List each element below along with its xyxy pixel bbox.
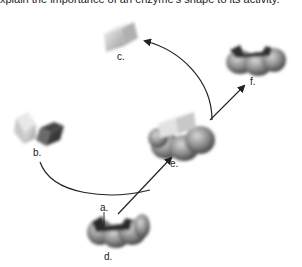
label-f: f. xyxy=(250,77,256,87)
label-e: e. xyxy=(170,159,178,169)
product-c-shape xyxy=(104,22,138,52)
arrow-b-curve xyxy=(40,162,150,195)
arrow-d-to-e xyxy=(118,158,171,214)
arrow-e-to-f xyxy=(210,86,244,120)
enzyme-f-shape xyxy=(226,45,286,76)
label-a: a. xyxy=(100,203,108,213)
label-b: b. xyxy=(33,148,41,158)
enzyme-d-shape xyxy=(87,214,150,248)
label-d: d. xyxy=(104,252,112,262)
complex-e-shape xyxy=(148,112,215,161)
substrates-b-shape xyxy=(14,112,64,146)
arrow-e-to-c xyxy=(145,41,212,120)
enzyme-cycle-diagram xyxy=(0,0,302,267)
label-c: c. xyxy=(117,52,125,62)
